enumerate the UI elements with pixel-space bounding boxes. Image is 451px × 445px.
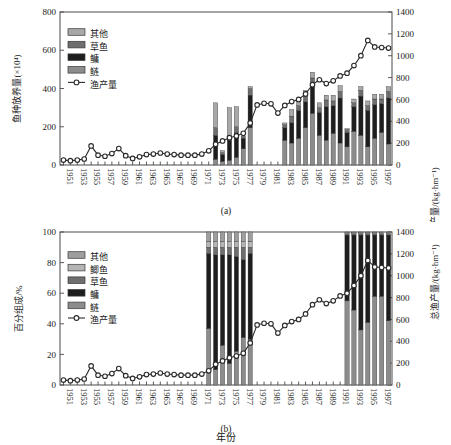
line-marker — [255, 323, 260, 328]
x-tick-label: 1979 — [258, 388, 268, 405]
x-tick-label: 1973 — [217, 168, 227, 185]
bar-segment — [248, 232, 252, 241]
line-marker — [193, 153, 198, 158]
bar-segment — [207, 247, 211, 253]
bar-segment — [359, 235, 363, 330]
bar-segment — [213, 103, 217, 128]
bar-segment — [234, 232, 238, 241]
y2-tick-label: 0 — [396, 380, 401, 390]
bar-segment — [241, 149, 245, 165]
x-tick-label: 1993 — [355, 168, 365, 185]
bar-segment — [345, 232, 349, 233]
line-marker — [199, 152, 204, 157]
bar-segment — [283, 123, 287, 125]
bar-segment — [345, 129, 349, 130]
bar-segment — [366, 322, 370, 385]
y2-tick-label: 400 — [396, 336, 410, 346]
line-marker — [379, 265, 384, 270]
x-tick-label: 1959 — [120, 388, 130, 405]
line-marker — [372, 265, 377, 270]
bar-segment — [310, 72, 314, 78]
bar-segment — [345, 234, 349, 236]
x-tick-label: 1993 — [355, 388, 365, 405]
y-axis-title: 鱼种放养量(×10⁴) — [11, 54, 22, 122]
legend-label: 其他 — [90, 28, 108, 39]
line-marker — [144, 372, 149, 377]
x-tick-label: 1953 — [79, 388, 89, 405]
bar-segment — [248, 87, 252, 89]
bar-segment — [379, 234, 383, 236]
bar-segment — [248, 128, 252, 165]
line-marker — [269, 102, 274, 107]
line-marker — [359, 273, 364, 278]
bar-segment — [213, 370, 217, 385]
x-tick-label: 1997 — [383, 388, 393, 405]
line-marker — [213, 362, 218, 367]
bar-segment — [234, 127, 238, 133]
bar-segment — [379, 132, 383, 165]
x-tick-label: 1955 — [92, 388, 102, 405]
line-marker — [144, 152, 149, 157]
line-marker — [158, 151, 163, 156]
line-marker — [75, 158, 80, 163]
line-marker — [255, 103, 260, 108]
bar-segment — [352, 99, 356, 103]
line-marker — [165, 152, 170, 157]
bar-segment — [227, 160, 231, 165]
line-marker — [172, 152, 177, 157]
line-marker — [289, 99, 294, 104]
x-tick-label: 1953 — [79, 168, 89, 185]
bar-segment — [241, 232, 245, 241]
bar-segment — [227, 108, 231, 136]
line-marker — [116, 366, 121, 371]
bar-segment — [241, 136, 245, 138]
x-tick-label: 1951 — [65, 168, 75, 185]
y2-tick-label: 200 — [396, 138, 410, 148]
y-tick-label: 800 — [43, 7, 57, 17]
x-tick-label: 1963 — [148, 388, 158, 405]
y2-tick-label: 800 — [396, 293, 410, 303]
bar-segment — [373, 105, 377, 138]
line-marker — [248, 341, 253, 346]
bars-group — [213, 72, 390, 165]
bar-segment — [345, 130, 349, 133]
x-tick-label: 1975 — [231, 388, 241, 405]
line-marker — [303, 92, 308, 97]
bar-segment — [234, 247, 238, 256]
legend-swatch — [68, 277, 85, 284]
legend-swatch — [68, 302, 85, 309]
line-marker — [82, 157, 87, 162]
line-marker — [317, 297, 322, 302]
bar-segment — [386, 234, 390, 236]
bar-segment — [241, 241, 245, 247]
bar-segment — [241, 138, 245, 149]
bar-segment — [352, 232, 356, 233]
line-marker — [151, 372, 156, 377]
y2-axis-title: 总渔产量/(kg·hm⁻¹) — [429, 167, 440, 222]
x-tick-label: 1991 — [341, 168, 351, 185]
y2-tick-label: 200 — [396, 358, 410, 368]
y2-tick-label: 800 — [396, 73, 410, 83]
line-marker — [365, 38, 370, 43]
bar-segment — [234, 241, 238, 247]
bar-segment — [213, 247, 217, 255]
x-tick-label: 1955 — [92, 168, 102, 185]
bar-segment — [359, 87, 363, 91]
bar-segment — [366, 106, 370, 111]
line-marker — [386, 266, 391, 271]
chart-panel-a: 0200400600800020040060080010001200140019… — [0, 0, 451, 222]
x-tick-label: 1967 — [175, 388, 185, 405]
bar-segment — [220, 345, 224, 385]
line-marker — [234, 134, 239, 139]
line-marker — [310, 82, 315, 87]
x-tick-label: 1977 — [245, 168, 255, 185]
bar-segment — [359, 234, 363, 236]
line-marker — [317, 77, 322, 82]
x-tick-label: 1959 — [120, 168, 130, 185]
bar-segment — [366, 234, 370, 236]
x-tick-label: 1995 — [369, 388, 379, 405]
x-tick-label: 1989 — [328, 388, 338, 405]
line-marker — [310, 302, 315, 307]
line-marker — [331, 79, 336, 84]
bar-segment — [345, 301, 349, 385]
